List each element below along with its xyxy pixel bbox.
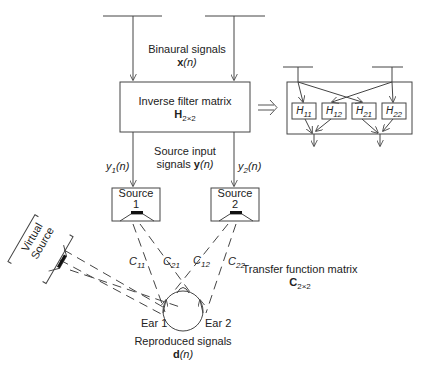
speaker1-icon — [120, 214, 154, 221]
ear1-label: Ear 1 — [141, 317, 167, 330]
speaker2-icon — [219, 214, 253, 221]
transfer-matrix-label: Transfer function matrix C2×2 — [230, 263, 370, 289]
h21-label: H21 — [352, 104, 376, 117]
virtual-path-3 — [70, 270, 183, 308]
source2-label: Source2 — [211, 188, 259, 210]
source1-label: Source1 — [112, 188, 160, 210]
inverse-filter-label: Inverse filter matrix H2×2 — [125, 95, 245, 121]
virtual-path-1 — [64, 250, 163, 307]
y2-label: y2(n) — [238, 160, 261, 173]
source-input-label: Source input signals y(n) — [150, 145, 220, 171]
c11-label: C11 — [129, 255, 145, 268]
h11-label: H11 — [292, 104, 316, 117]
reproduced-label: Reproduced signals d(n) — [133, 335, 233, 361]
c12-label: C12 — [193, 254, 210, 267]
h12-label: H12 — [322, 104, 346, 117]
y1-label: y1(n) — [106, 160, 129, 173]
binaural-label: Binaural signals x(n) — [137, 43, 237, 69]
ear2-label: Ear 2 — [205, 317, 231, 330]
c21-label: C21 — [163, 255, 180, 268]
h22-label: H22 — [382, 104, 406, 117]
listener-head — [163, 291, 203, 331]
